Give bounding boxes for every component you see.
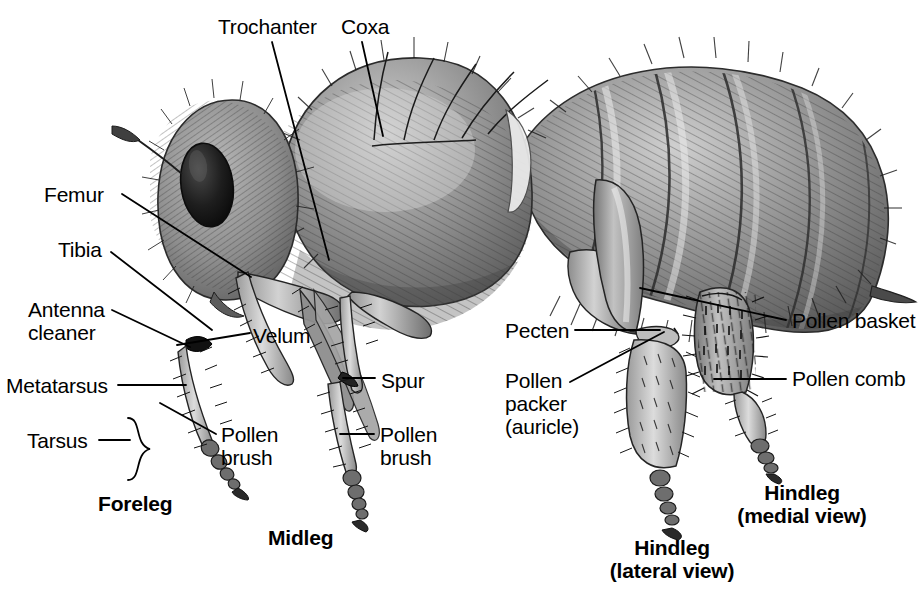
label-tarsus: Tarsus — [27, 429, 88, 452]
label-velum: Velum — [253, 324, 310, 347]
label-metatarsus: Metatarsus — [6, 374, 108, 397]
label-pollen-basket: Pollen basket — [792, 309, 915, 332]
caption-hindleg-lateral: Hindleg (lateral view) — [582, 536, 762, 582]
label-femur: Femur — [44, 183, 104, 206]
figure-canvas: TrochanterCoxaFemurTibiaAntenna cleanerV… — [0, 0, 919, 590]
label-coxa: Coxa — [341, 15, 389, 38]
label-pecten: Pecten — [505, 319, 569, 342]
label-antenna-cleaner: Antenna cleaner — [28, 298, 105, 344]
caption-foreleg: Foreleg — [98, 492, 172, 515]
label-pollen-comb: Pollen comb — [792, 367, 905, 390]
tarsus-brace-icon — [128, 418, 150, 480]
label-trochanter: Trochanter — [218, 15, 317, 38]
caption-hindleg-medial: Hindleg (medial view) — [712, 481, 892, 527]
label-spur: Spur — [381, 369, 425, 392]
label-tibia: Tibia — [58, 238, 102, 261]
label-pollen-brush-midleg: Pollen brush — [380, 423, 437, 469]
label-pollen-brush-foreleg: Pollen brush — [221, 423, 278, 469]
caption-midleg: Midleg — [268, 526, 333, 549]
leader-antenna-cleaner — [112, 310, 190, 347]
label-pollen-packer: Pollen packer (auricle) — [505, 369, 579, 438]
